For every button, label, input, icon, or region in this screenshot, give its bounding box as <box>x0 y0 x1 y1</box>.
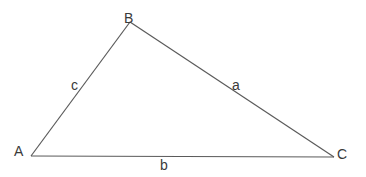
vertex-label-b: B <box>124 10 133 26</box>
side-b-line <box>31 156 334 157</box>
side-label-a: a <box>232 77 240 93</box>
vertex-label-c: C <box>337 146 347 162</box>
side-label-b: b <box>160 157 168 173</box>
vertex-label-a: A <box>14 143 24 159</box>
triangle-diagram: A B C c a b <box>0 0 366 177</box>
side-c-line <box>31 22 130 156</box>
side-label-c: c <box>71 77 78 93</box>
